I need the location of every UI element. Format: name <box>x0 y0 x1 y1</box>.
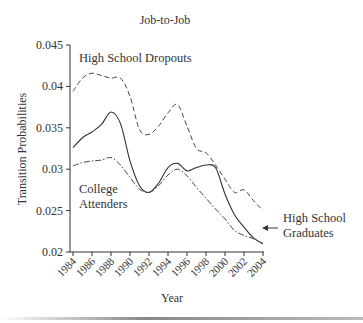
chart-title: Job-to-Job <box>140 13 191 27</box>
y-tick-label: 0.035 <box>36 121 63 135</box>
annotation-college-1: College <box>79 182 118 196</box>
y-tick-label: 0.03 <box>42 162 63 176</box>
y-tick-label: 0.04 <box>42 79 63 93</box>
series-lines <box>73 73 263 244</box>
x-tick-label: 1992 <box>130 255 154 279</box>
annotation-dropouts: High School Dropouts <box>79 51 192 65</box>
x-tick-label: 2000 <box>206 255 230 279</box>
x-tick-label: 1994 <box>149 255 173 279</box>
bottom-rule <box>0 317 363 320</box>
x-tick-label: 1988 <box>92 255 116 279</box>
arrow-icon <box>262 225 278 231</box>
x-tick-label: 2002 <box>225 255 249 279</box>
annotation-college-2: Attenders <box>79 197 128 211</box>
y-tick-label: 0.025 <box>36 204 63 218</box>
x-tick-label: 1996 <box>168 255 192 279</box>
x-tick-label: 1990 <box>111 255 135 279</box>
y-axis-label: Transition Probabilities <box>15 92 29 205</box>
x-tick-label: 1998 <box>187 255 211 279</box>
y-axis: 0.020.0250.030.0350.040.045 <box>36 38 70 259</box>
annotation-grads-2: Graduates <box>283 226 334 240</box>
job-to-job-chart: Job-to-Job 0.020.0250.030.0350.040.045 T… <box>0 0 363 323</box>
y-tick-label: 0.045 <box>36 38 63 52</box>
series-high-school-graduates <box>73 112 263 244</box>
x-tick-label: 2004 <box>244 255 268 279</box>
annotation-grads-1: High School <box>283 211 346 225</box>
x-axis: 1984198619881990199219941996199820002002… <box>54 252 268 279</box>
y-tick-label: 0.02 <box>42 245 63 259</box>
x-tick-label: 1986 <box>73 255 97 279</box>
x-axis-label: Year <box>161 291 183 305</box>
